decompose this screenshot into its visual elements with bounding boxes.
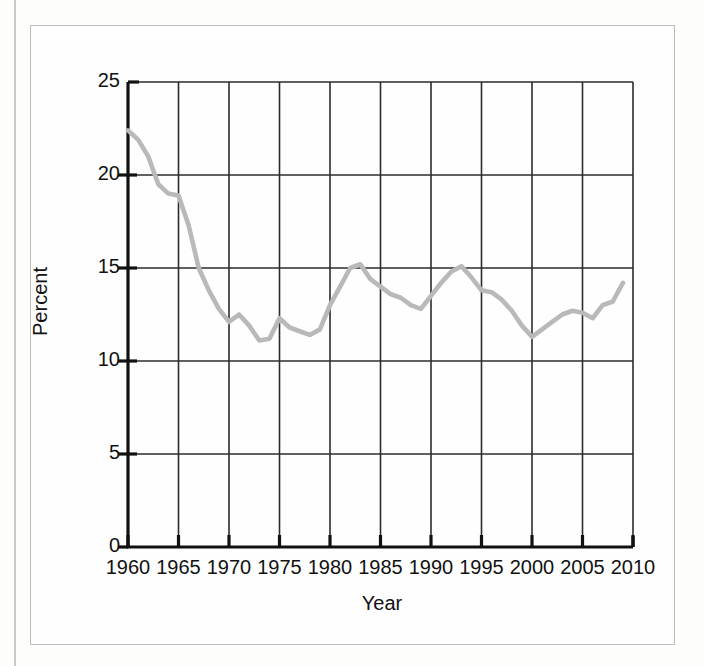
x-tick-label: 1960 <box>102 556 154 579</box>
x-tick-label: 1965 <box>153 556 205 579</box>
x-tick-label: 1990 <box>405 556 457 579</box>
y-tick-label: 0 <box>76 534 120 557</box>
x-tick-label: 1995 <box>456 556 508 579</box>
y-tick-label: 5 <box>76 441 120 464</box>
x-axis-tick-labels: 1960196519701975198019851990199520002005… <box>0 556 704 586</box>
y-tick-label: 15 <box>76 255 120 278</box>
x-tick-label: 1985 <box>355 556 407 579</box>
x-tick-label: 1970 <box>203 556 255 579</box>
x-tick-label: 2000 <box>506 556 558 579</box>
x-axis-title: Year <box>0 592 704 615</box>
y-tick-label: 10 <box>76 348 120 371</box>
x-tick-label: 2010 <box>607 556 659 579</box>
y-tick-label: 20 <box>76 162 120 185</box>
x-tick-label: 2005 <box>557 556 609 579</box>
x-tick-label: 1980 <box>304 556 356 579</box>
y-axis-title: Percent <box>29 242 52 362</box>
x-tick-label: 1975 <box>254 556 306 579</box>
data-line-series <box>128 130 623 340</box>
gridlines <box>128 82 633 547</box>
y-tick-label: 25 <box>76 69 120 92</box>
series-line-percent <box>128 130 623 340</box>
